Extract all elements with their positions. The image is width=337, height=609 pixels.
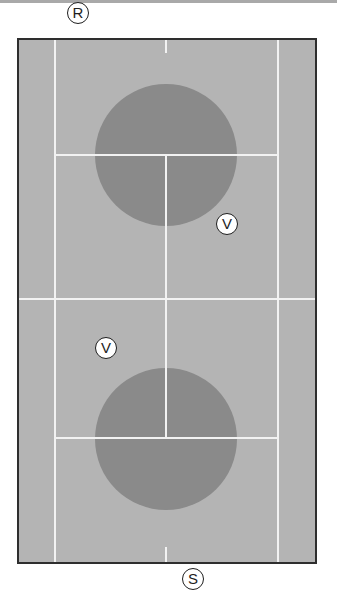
player-volleyer-bottom: V xyxy=(95,337,117,359)
bottom-center-mark xyxy=(165,547,167,562)
right-singles-sideline xyxy=(277,40,279,562)
top-center-mark xyxy=(165,40,167,53)
top-border-bar xyxy=(0,0,337,3)
player-volleyer-top: V xyxy=(216,213,238,235)
left-singles-sideline xyxy=(54,40,56,562)
tennis-court xyxy=(17,38,317,564)
top-center-service-line xyxy=(165,154,167,299)
net-line xyxy=(19,298,315,300)
player-receiver: R xyxy=(67,2,89,24)
bottom-center-service-line xyxy=(165,299,167,438)
player-server: S xyxy=(182,568,204,590)
